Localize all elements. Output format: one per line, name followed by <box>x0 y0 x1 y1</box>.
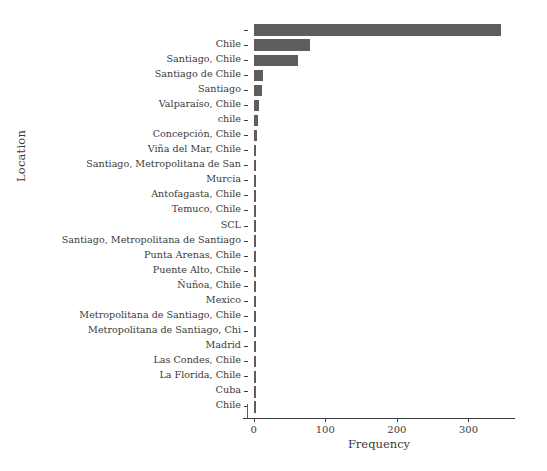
y-axis-tick <box>244 241 248 242</box>
bar <box>254 145 256 156</box>
y-axis-tick-label: Murcia <box>0 174 241 184</box>
bar-row <box>248 97 510 113</box>
bar <box>254 55 298 66</box>
x-axis-tick <box>397 418 398 422</box>
bar <box>254 24 501 35</box>
y-axis-tick <box>244 30 248 31</box>
x-axis-line <box>243 418 515 419</box>
plot-area <box>248 22 510 414</box>
y-axis-tick-label: Temuco, Chile <box>0 204 241 214</box>
y-axis-tick-label: La Florida, Chile <box>0 370 241 380</box>
bar <box>254 220 256 231</box>
y-axis-tick <box>244 105 248 106</box>
y-axis-tick <box>244 256 248 257</box>
y-axis-tick <box>244 226 248 227</box>
bar-row <box>248 354 510 370</box>
bar-row <box>248 52 510 68</box>
bar-row <box>248 308 510 324</box>
bar-row <box>248 218 510 234</box>
y-axis-tick <box>244 120 248 121</box>
y-axis-tick <box>244 271 248 272</box>
bar-row <box>248 22 510 38</box>
y-axis-tick-label: Metropolitana de Santiago, Chi <box>0 325 241 335</box>
y-axis-tick <box>244 195 248 196</box>
y-axis-tick <box>244 316 248 317</box>
y-axis-tick-label: Cuba <box>0 385 241 395</box>
x-axis-tick-label: 0 <box>234 424 274 435</box>
y-axis-tick-label: Punta Arenas, Chile <box>0 250 241 260</box>
bar <box>254 401 256 412</box>
y-axis-tick-label: Santiago, Metropolitana de Santiago <box>0 235 241 245</box>
y-axis-tick-label: Metropolitana de Santiago, Chile <box>0 310 241 320</box>
bar <box>254 70 263 81</box>
bar-row <box>248 112 510 128</box>
bar <box>254 190 256 201</box>
y-axis-tick-label: Santiago, Chile <box>0 54 241 64</box>
bar-row <box>248 263 510 279</box>
y-axis-tick-label: Santiago <box>0 84 241 94</box>
y-axis-tick <box>244 135 248 136</box>
y-axis-tick-label: Chile <box>0 39 241 49</box>
bar <box>254 341 256 352</box>
bar-row <box>248 173 510 189</box>
y-axis-tick-label: SCL <box>0 220 241 230</box>
y-axis-tick-label: Viña del Mar, Chile <box>0 144 241 154</box>
bar <box>254 85 262 96</box>
bar <box>254 100 260 111</box>
y-axis-tick <box>244 331 248 332</box>
bar <box>254 175 256 186</box>
bar-row <box>248 128 510 144</box>
y-axis-tick-label: Las Condes, Chile <box>0 355 241 365</box>
x-axis-tick <box>468 418 469 422</box>
bar <box>254 205 256 216</box>
y-axis-tick-label: Chile <box>0 400 241 410</box>
axis-origin-stub <box>247 404 248 418</box>
bar-row <box>248 384 510 400</box>
bar-row <box>248 158 510 174</box>
bar <box>254 160 256 171</box>
bar <box>254 39 311 50</box>
y-axis-tick-label: Puente Alto, Chile <box>0 265 241 275</box>
bar-row <box>248 324 510 340</box>
bar-row <box>248 399 510 415</box>
bar-row <box>248 293 510 309</box>
bar-row <box>248 67 510 83</box>
bar <box>254 356 256 367</box>
y-axis-tick <box>244 361 248 362</box>
y-axis-tick <box>244 45 248 46</box>
y-axis-tick <box>244 90 248 91</box>
y-axis-tick-label: Santiago, Metropolitana de San <box>0 159 241 169</box>
x-axis-tick <box>254 418 255 422</box>
bar <box>254 311 256 322</box>
bar <box>254 326 256 337</box>
y-axis-tick <box>244 301 248 302</box>
y-axis-tick-label: Santiago de Chile <box>0 69 241 79</box>
bar-row <box>248 188 510 204</box>
bar <box>254 115 258 126</box>
bar <box>254 371 256 382</box>
bar-row <box>248 369 510 385</box>
y-axis-tick <box>244 391 248 392</box>
y-axis-tick-label: Madrid <box>0 340 241 350</box>
y-axis-tick <box>244 165 248 166</box>
bar <box>254 130 257 141</box>
bar-row <box>248 278 510 294</box>
bar-row <box>248 248 510 264</box>
x-axis-title: Frequency <box>248 437 510 451</box>
bar-row <box>248 203 510 219</box>
y-axis-tick <box>244 180 248 181</box>
x-axis-tick-label: 200 <box>377 424 417 435</box>
frequency-by-location-bar-chart: Location ChileSantiago, ChileSantiago de… <box>0 0 547 471</box>
bar <box>254 386 256 397</box>
bar-row <box>248 37 510 53</box>
y-axis-tick-label: Antofagasta, Chile <box>0 189 241 199</box>
y-axis-tick-label: Valparaíso, Chile <box>0 99 241 109</box>
bar <box>254 251 256 262</box>
bar-row <box>248 339 510 355</box>
y-axis-tick <box>244 210 248 211</box>
bar-row <box>248 82 510 98</box>
y-axis-tick <box>244 150 248 151</box>
y-axis-tick <box>244 346 248 347</box>
bar-row <box>248 233 510 249</box>
x-axis-tick-label: 100 <box>305 424 345 435</box>
